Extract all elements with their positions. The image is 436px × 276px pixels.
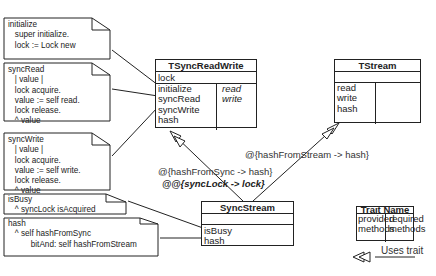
required-methods: read write bbox=[217, 84, 242, 130]
legend-required: required methods bbox=[386, 214, 425, 242]
note-line: lock acquire. bbox=[8, 156, 81, 166]
class-attributes-empty bbox=[202, 214, 293, 225]
legend-trait-box: Trait Name provided methods required met… bbox=[356, 206, 414, 241]
class-methods: isBusy hash bbox=[202, 225, 293, 247]
note-initialize: initialize super initialize. lock := Loc… bbox=[8, 20, 76, 51]
class-tsyncreadwrite[interactable]: TSyncReadWrite lock initialize syncRead … bbox=[155, 59, 257, 128]
note-line: syncWrite bbox=[8, 135, 81, 145]
note-line: ^ value bbox=[8, 116, 80, 126]
note-line: | value | bbox=[8, 75, 80, 85]
note-line: isBusy bbox=[8, 195, 96, 205]
note-line: lock release. bbox=[8, 106, 80, 116]
note-line: value := self read. bbox=[8, 96, 80, 106]
note-line: lock := Lock new bbox=[8, 41, 76, 51]
rename-label-lock: @@{syncLock -> lock} bbox=[162, 178, 265, 189]
alias-label-stream: @{hashFromStream -> hash} bbox=[245, 149, 369, 160]
note-line: syncRead bbox=[8, 65, 80, 75]
note-line: | value | bbox=[8, 145, 81, 155]
connector-syncwrite bbox=[112, 107, 158, 156]
connector-initialize bbox=[112, 50, 158, 85]
note-syncwrite: syncWrite | value | lock acquire. value … bbox=[8, 135, 81, 197]
note-line: bitAnd: self hashFromStream bbox=[8, 240, 137, 250]
method-hash: hash bbox=[337, 104, 375, 114]
method-hash: hash bbox=[158, 115, 216, 125]
note-line: ^ self hashFromSync bbox=[8, 229, 137, 239]
double-arrowhead-icon bbox=[322, 123, 339, 139]
connector-syncread bbox=[112, 89, 158, 96]
class-syncstream[interactable]: SyncStream isBusy hash bbox=[201, 201, 294, 246]
required-methods bbox=[376, 83, 381, 124]
class-tstream[interactable]: TStream read write hash bbox=[334, 59, 421, 123]
provided-methods: read write hash bbox=[335, 83, 376, 124]
note-line: super initialize. bbox=[8, 30, 76, 40]
double-arrowhead-icon bbox=[353, 252, 370, 262]
legend-provided: provided methods bbox=[357, 214, 386, 242]
note-line: hash bbox=[8, 219, 137, 229]
note-hash: hash ^ self hashFromSync bitAnd: self ha… bbox=[8, 219, 137, 250]
legend-uses-trait-label: Uses trait bbox=[381, 245, 423, 256]
note-syncread: syncRead | value | lock acquire. value :… bbox=[8, 65, 80, 127]
note-line: lock acquire. bbox=[8, 86, 80, 96]
alias-label-sync: @{hashFromSync -> hash} bbox=[158, 166, 272, 177]
class-title: TStream bbox=[335, 60, 420, 72]
class-title: SyncStream bbox=[202, 202, 293, 214]
method-write: write bbox=[222, 94, 242, 104]
note-line: lock release. bbox=[8, 176, 81, 186]
note-line: initialize bbox=[8, 20, 76, 30]
double-arrowhead-icon bbox=[170, 131, 185, 147]
legend-provided-line: methods bbox=[358, 224, 385, 234]
note-isbusy: isBusy ^ syncLock isAcquired bbox=[8, 195, 96, 216]
uses-trait-line-stream bbox=[253, 126, 336, 201]
class-title: TSyncReadWrite bbox=[156, 60, 256, 72]
legend-required-line: methods bbox=[389, 224, 425, 234]
note-line: ^ syncLock isAcquired bbox=[8, 205, 96, 215]
provided-methods: initialize syncRead syncWrite hash bbox=[156, 84, 217, 130]
note-line: value := self write. bbox=[8, 166, 81, 176]
method-hash: hash bbox=[204, 236, 293, 246]
